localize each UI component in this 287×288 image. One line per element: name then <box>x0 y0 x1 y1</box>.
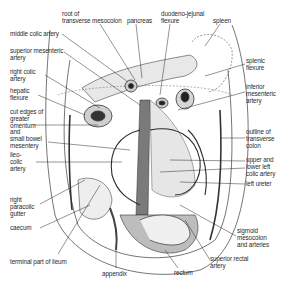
label-spleen: spleen <box>213 18 231 25</box>
label-terminal-ileum: terminal part of ileum <box>10 259 67 266</box>
label-pancreas: pancreas <box>127 18 152 25</box>
label-right-paracolic-gutter: right paracolic gutter <box>10 197 34 217</box>
appendix-shape <box>110 208 117 250</box>
label-splenic-flexure: splenic flexure <box>246 58 265 72</box>
label-superior-rectal-artery: superior rectal artery <box>210 256 248 270</box>
label-appendix: appendix <box>102 271 127 278</box>
aorta <box>136 100 150 215</box>
label-upper-lower-left-colic-artery: upper and lower left colic artery <box>246 157 275 177</box>
label-right-colic-artery: right colic artery <box>10 69 36 83</box>
label-duodeno-jejunal-flexure: duodeno-jejunal flexure <box>161 11 204 25</box>
label-left-ureter: left ureter <box>246 181 272 188</box>
right-paracolic-vessel <box>69 115 72 210</box>
label-sigmoid-mesocolon: sigmoid mesocolon and arteries <box>237 228 269 248</box>
label-caecum: caecum <box>10 225 31 232</box>
label-inferior-mesenteric-artery: inferior mesenteric artery <box>246 84 276 104</box>
label-superior-mesenteric-artery: superior mesenteric artery <box>10 48 63 62</box>
label-outline-transverse-colon: outline of transverse colon <box>246 129 274 149</box>
label-hepatic-flexure: hepatic flexure <box>10 88 30 102</box>
spleen-outline <box>192 34 232 92</box>
label-rectum: rectum <box>174 270 193 277</box>
label-ileo-colic-artery: ileo- colic artery <box>10 152 26 172</box>
left-ureter-vessel <box>210 110 221 240</box>
label-middle-colic-artery: middle colic artery <box>10 31 59 38</box>
label-cut-edges: cut edges of greater omentum and small b… <box>10 109 43 150</box>
label-root-transverse-mesocolon: root of transverse mesocolon <box>62 11 122 25</box>
